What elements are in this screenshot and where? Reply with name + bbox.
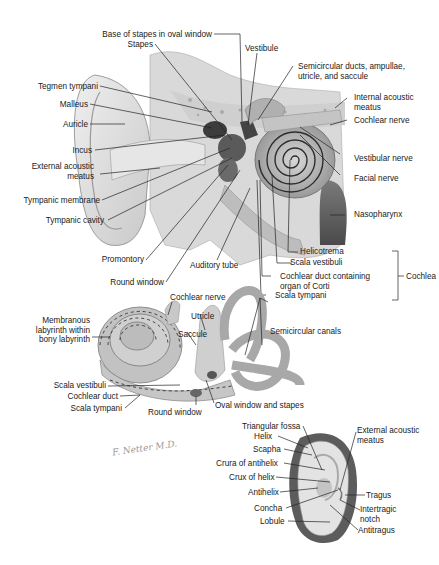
label-vestibule: Vestibule <box>245 44 278 54</box>
label-tragus: Tragus <box>366 491 391 501</box>
label-scala-tympani-cochlea: Scala tympani <box>275 291 326 301</box>
label-membranous-labyrinth-line1: Membranous <box>42 316 90 325</box>
label-utricle: Utricle <box>191 312 214 322</box>
label-cochlear-duct-labyrinth: Cochlear duct <box>40 392 118 402</box>
label-round-window-labyrinth: Round window <box>148 408 202 418</box>
label-cochlear-duct-line2: organ of Corti <box>280 282 330 291</box>
label-helix: Helix <box>254 432 272 442</box>
label-cochlear-nerve: Cochlear nerve <box>354 116 410 126</box>
label-facial-nerve: Facial nerve <box>354 174 399 184</box>
cochlea-spiral <box>255 122 335 198</box>
label-external-acoustic-meatus-line2: meatus <box>67 172 94 181</box>
label-crura-of-antihelix: Crura of antihelix <box>216 459 278 469</box>
label-scala-vestibuli-cochlea: Scala vestibuli <box>290 258 342 268</box>
label-cochlea: Cochlea <box>406 272 436 282</box>
label-promontory: Promontory <box>80 255 144 265</box>
label-antitragus: Antitragus <box>358 526 395 536</box>
label-tegmen-tympani: Tegmen tympani <box>20 82 98 92</box>
label-scala-tympani-labyrinth: Scala tympani <box>60 404 122 414</box>
label-cochlear-nerve-labyrinth: Cochlear nerve <box>170 293 226 303</box>
label-internal-acoustic-meatus-line1: Internal acoustic <box>354 93 414 102</box>
label-intertragic-notch-line2: notch <box>360 515 380 524</box>
labyrinth-section <box>92 291 300 408</box>
label-auricle: Auricle <box>40 120 88 130</box>
label-semicircular-canals: Semicircular canals <box>270 327 341 337</box>
label-round-window-section1: Round window <box>90 278 164 288</box>
label-scala-vestibuli-labyrinth: Scala vestibuli <box>30 381 106 391</box>
label-external-acoustic-meatus-auricle-line2: meatus <box>357 436 384 445</box>
label-base-of-stapes: Base of stapes in oval window <box>90 30 212 40</box>
semicircular-canals-shape <box>224 291 300 387</box>
label-nasopharynx: Nasopharynx <box>354 210 402 220</box>
label-vestibular-nerve: Vestibular nerve <box>354 154 413 164</box>
label-stapes: Stapes <box>110 40 153 50</box>
label-scapha: Scapha <box>253 445 281 455</box>
label-lobule: Lobule <box>260 517 285 527</box>
label-auditory-tube: Auditory tube <box>190 261 238 271</box>
label-tympanic-membrane: Tympanic membrane <box>10 196 100 206</box>
label-oval-window-and-stapes: Oval window and stapes <box>215 401 304 411</box>
label-triangular-fossa: Triangular fossa <box>242 422 300 432</box>
label-external-acoustic-meatus-line1: External acoustic <box>32 162 94 171</box>
label-membranous-labyrinth: Membranous labyrinth within bony labyrin… <box>20 316 90 345</box>
label-malleus: Malleus <box>40 100 88 110</box>
label-internal-acoustic-meatus-line2: meatus <box>354 103 381 112</box>
label-concha: Concha <box>254 504 282 514</box>
label-semicircular-ducts-line2: utricle, and saccule <box>298 72 368 81</box>
label-intertragic-notch: Intertragic notch <box>360 505 396 524</box>
label-external-acoustic-meatus: External acoustic meatus <box>20 162 94 181</box>
label-external-acoustic-meatus-auricle-line1: External acoustic <box>357 426 419 435</box>
label-membranous-labyrinth-line2: labyrinth within <box>36 326 90 335</box>
label-tympanic-cavity: Tympanic cavity <box>20 216 104 226</box>
label-cochlear-duct-line1: Cochlear duct containing <box>280 272 370 281</box>
label-helicotrema: Helicotrema <box>300 247 344 257</box>
label-antihelix: Antihelix <box>248 488 279 498</box>
label-semicircular-ducts: Semicircular ducts, ampullae, utricle, a… <box>298 62 405 81</box>
label-incus: Incus <box>40 146 92 156</box>
label-crux-of-helix: Crux of helix <box>229 473 275 483</box>
label-cochlear-duct: Cochlear duct containing organ of Corti <box>280 272 370 291</box>
label-saccule: Saccule <box>178 330 207 340</box>
label-intertragic-notch-line1: Intertragic <box>360 505 396 514</box>
label-membranous-labyrinth-line3: bony labyrinth <box>39 335 90 344</box>
auricle-section <box>276 426 365 543</box>
label-internal-acoustic-meatus: Internal acoustic meatus <box>354 93 414 112</box>
label-external-acoustic-meatus-auricle: External acoustic meatus <box>357 426 419 445</box>
label-semicircular-ducts-line1: Semicircular ducts, ampullae, <box>298 62 405 71</box>
